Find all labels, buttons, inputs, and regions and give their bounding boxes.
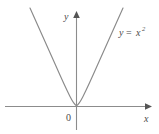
arrow-up-icon <box>73 11 80 18</box>
equation-base: x <box>135 27 141 38</box>
figure-canvas: y x 0 y = x 2 <box>0 0 159 134</box>
arrow-right-icon <box>145 103 152 110</box>
equation-operator: = <box>126 27 132 38</box>
equation-variable: y <box>118 27 124 38</box>
parabola-figure: y x 0 y = x 2 <box>0 0 159 134</box>
equation-exponent: 2 <box>142 25 146 32</box>
y-axis-label: y <box>63 11 69 22</box>
x-axis-label: x <box>143 113 149 124</box>
curve-equation-label: y = x 2 <box>118 25 146 38</box>
origin-label: 0 <box>66 112 71 123</box>
